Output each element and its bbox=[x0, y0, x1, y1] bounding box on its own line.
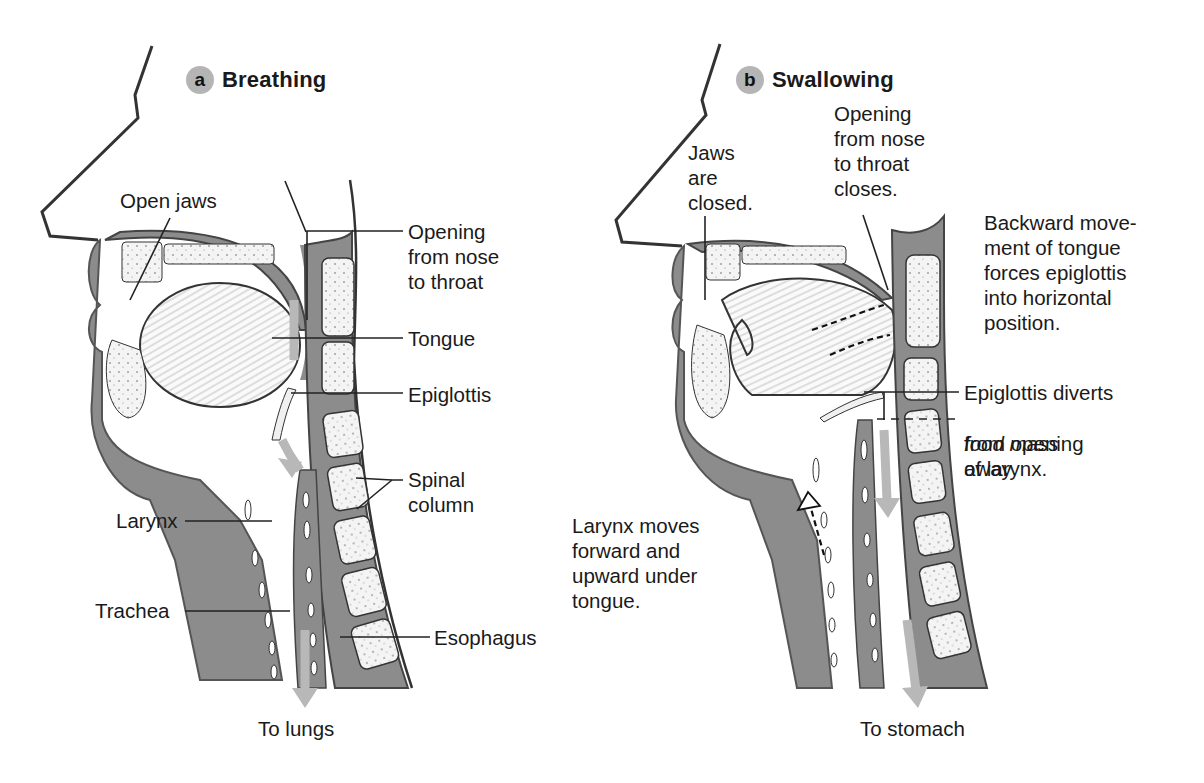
label-larynx: Larynx bbox=[116, 508, 178, 533]
panel-swallowing: b Swallowing Jaws are closed. Opening fr… bbox=[602, 0, 1204, 783]
label-to-stomach: To stomach bbox=[860, 716, 965, 741]
label-opening-closes: Opening from nose to throat closes. bbox=[834, 101, 925, 201]
label-trachea: Trachea bbox=[95, 598, 169, 623]
label-spinal-column: Spinal column bbox=[408, 467, 474, 517]
panel-title-text: Swallowing bbox=[772, 67, 894, 93]
panel-badge: a bbox=[186, 66, 214, 94]
label-epiglottis-diverts: Epiglottis diverts bbox=[964, 380, 1113, 405]
label-opening-nose-throat: Opening from nose to throat bbox=[408, 219, 499, 294]
panel-title-breathing: a Breathing bbox=[186, 66, 326, 94]
tongue-shape bbox=[722, 279, 896, 395]
hard-palate-bone bbox=[164, 244, 274, 264]
tongue-shape bbox=[140, 283, 300, 407]
label-epiglottis: Epiglottis bbox=[408, 382, 491, 407]
arrow-to-stomach-icon bbox=[902, 686, 928, 708]
label-backward-movement: Backward move- ment of tongue forces epi… bbox=[984, 210, 1137, 335]
panel-title-text: Breathing bbox=[222, 67, 326, 93]
hard-palate-bone bbox=[742, 246, 846, 264]
lower-jaw-bone bbox=[106, 340, 146, 418]
panel-breathing: a Breathing Open jaws Opening from nose … bbox=[0, 0, 602, 783]
arrow-to-lungs-icon bbox=[292, 688, 318, 708]
trachea-tube bbox=[853, 420, 884, 688]
label-tongue: Tongue bbox=[408, 326, 475, 351]
epiglottis-shape bbox=[272, 388, 296, 440]
breathing-anatomy-illustration bbox=[0, 0, 602, 783]
epiglottis-shape bbox=[820, 392, 884, 422]
panel-badge: b bbox=[736, 66, 764, 94]
label-from-opening-of-larynx: from opening of larynx. bbox=[964, 431, 1084, 481]
panel-title-swallowing: b Swallowing bbox=[736, 66, 894, 94]
label-larynx-moves: Larynx moves forward and upward under to… bbox=[572, 513, 700, 613]
label-to-lungs: To lungs bbox=[258, 716, 334, 741]
label-jaws-closed: Jaws are closed. bbox=[688, 140, 753, 215]
label-open-jaws: Open jaws bbox=[120, 188, 217, 213]
upper-jaw-bone bbox=[706, 244, 740, 280]
lower-jaw-bone bbox=[692, 325, 730, 418]
label-esophagus: Esophagus bbox=[434, 625, 537, 650]
